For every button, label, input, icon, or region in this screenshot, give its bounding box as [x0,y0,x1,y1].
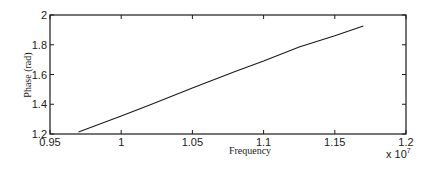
x-tick-label: 1 [118,136,124,148]
x-axis-label: Frequency [229,145,271,156]
y-tick-label: 1.8 [32,39,47,51]
phase-line [79,26,364,132]
y-axis-ticks: 1.21.41.61.82 [32,9,406,140]
x-tick-label: 1.05 [182,136,203,148]
y-tick-label: 1.4 [32,98,47,110]
x-tick-label: 1.15 [324,136,345,148]
x-axis-ticks: 0.9511.051.11.151.2 [39,15,413,148]
y-tick-label: 2 [41,9,47,21]
y-tick-label: 1.6 [32,69,47,81]
y-axis-label: Phase (rad) [22,52,34,97]
y-tick-label: 1.2 [32,128,47,140]
x-exponent-label: x 107 [386,147,411,160]
phase-frequency-chart: 0.9511.051.11.151.2 1.21.41.61.82 Freque… [0,0,431,169]
